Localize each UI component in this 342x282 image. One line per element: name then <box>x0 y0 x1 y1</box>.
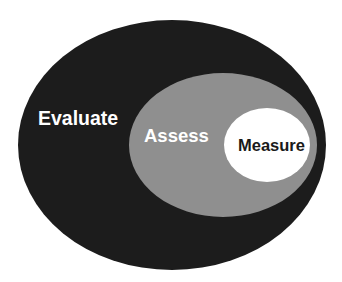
evaluate-label: Evaluate <box>38 107 118 129</box>
assess-label: Assess <box>144 125 209 146</box>
nested-ellipse-diagram: Evaluate Assess Measure <box>0 0 342 282</box>
measure-label: Measure <box>238 136 305 154</box>
